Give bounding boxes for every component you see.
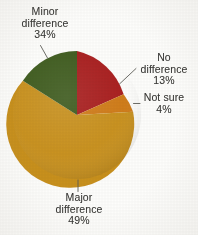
pie-label-not-sure: Not sure 4% <box>131 92 197 115</box>
pie-label-major-difference-value: 49% <box>33 215 125 227</box>
pie-label-major-difference-line1: Major <box>33 192 125 204</box>
pie-label-not-sure-line1: Not sure <box>131 92 197 104</box>
pie-label-minor-difference-value: 34% <box>8 29 82 41</box>
pie-shading-overlay <box>13 51 141 179</box>
pie-label-minor-difference: Minor difference 34% <box>8 6 82 41</box>
pie-label-not-sure-value: 4% <box>131 104 197 116</box>
leader-line-minor-difference <box>41 46 48 59</box>
pie-label-no-difference: No difference 13% <box>133 52 195 87</box>
chart-canvas: Minor difference 34% No difference 13% N… <box>0 0 198 235</box>
pie-label-no-difference-value: 13% <box>133 75 195 87</box>
pie-label-no-difference-line1: No <box>133 52 195 64</box>
pie-label-minor-difference-line1: Minor <box>8 6 82 18</box>
pie-label-major-difference: Major difference 49% <box>33 192 125 227</box>
